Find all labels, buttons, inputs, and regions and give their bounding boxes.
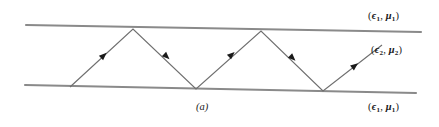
epsilon-subscript-bottom: 1 (376, 106, 380, 114)
label-top-medium: (ϵ1, μ1) (368, 10, 399, 23)
boundary-lines (25, 25, 421, 93)
arrowhead-down-right-1 (162, 52, 172, 62)
waveguide-ray-diagram: (ϵ1, μ1) (ϵ2, μ2) (ϵ1, μ1) (a) (0, 0, 439, 127)
bottom-boundary-line (25, 85, 416, 93)
mu-subscript-core: 2 (395, 49, 399, 57)
ray-arrowheads (99, 50, 360, 71)
epsilon-subscript-core: 2 (379, 49, 383, 57)
ray-polyline (70, 29, 382, 91)
epsilon-subscript-top: 1 (376, 15, 380, 23)
mu-subscript-bottom: 1 (392, 106, 396, 114)
mu-subscript-top: 1 (392, 15, 396, 23)
label-bottom-medium: (ϵ1, μ1) (368, 101, 399, 114)
top-boundary-line (26, 25, 421, 32)
ray-path (70, 29, 382, 91)
figure-caption: (a) (196, 101, 208, 112)
label-core-medium: (ϵ2, μ2) (371, 44, 402, 57)
